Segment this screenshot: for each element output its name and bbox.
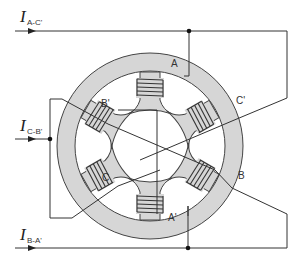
pole-label-c: C <box>102 172 109 183</box>
current-label-a-c-prime: I A-C' <box>19 7 43 27</box>
junction-dot <box>187 29 192 34</box>
diagram-canvas: I A-C' I C-B' I B-A' A C' B A' C B' <box>0 0 294 262</box>
svg-text:B-A': B-A' <box>27 236 42 245</box>
pole-label-a: A <box>171 58 178 69</box>
current-label-c-b-prime: I C-B' <box>19 116 43 136</box>
wire-to-pole-c-prime <box>232 31 287 121</box>
pole-label-b-prime: B' <box>101 98 110 109</box>
svg-text:C-B': C-B' <box>27 127 43 136</box>
pole-label-b: B <box>238 170 245 181</box>
pole-label-c-prime: C' <box>236 95 245 106</box>
svg-text:I: I <box>19 116 27 135</box>
svg-text:I: I <box>19 7 27 26</box>
arrow-icon <box>28 28 36 34</box>
pole-label-a-prime: A' <box>168 212 177 223</box>
arrow-icon <box>28 245 36 251</box>
arrow-icon <box>28 136 36 142</box>
svg-text:I: I <box>19 225 27 244</box>
junction-dot <box>186 246 191 251</box>
current-label-b-a-prime: I B-A' <box>19 225 42 245</box>
stator-winding-diagram: I A-C' I C-B' I B-A' A C' B A' C B' <box>0 0 294 262</box>
junction-dot <box>48 137 53 142</box>
svg-text:A-C': A-C' <box>27 18 43 27</box>
wire-to-pole-b <box>232 188 287 248</box>
